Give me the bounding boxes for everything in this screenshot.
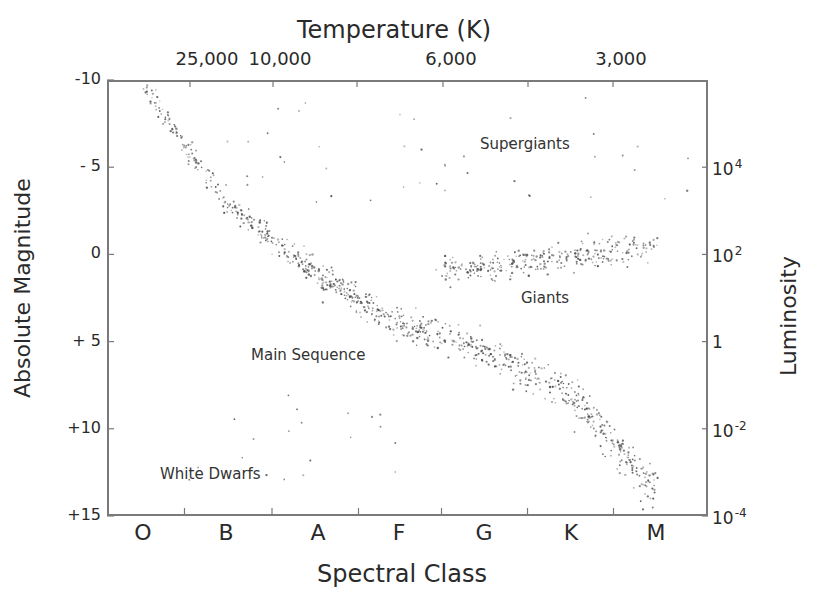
y-tick-label: - 5 [55,156,101,175]
spectral-class-k: K [564,520,578,545]
spectral-class-b: B [218,520,233,545]
spectral-class-f: F [393,520,406,545]
y-tick-label: -10 [55,69,101,88]
y-tick-label: 0 [55,243,101,262]
y2-axis-title: Luminosity [776,256,801,376]
supergiants-label: Supergiants [480,135,570,153]
main-sequence-label: Main Sequence [251,346,366,364]
scatter-plot [0,0,819,608]
x-axis-title: Spectral Class [317,560,487,588]
white-dwarfs-label: White Dwarfs [160,465,261,483]
luminosity-tick-label: 10-4 [712,506,747,528]
luminosity-tick-label: 10-2 [712,419,747,441]
y-tick-label: +15 [55,505,101,524]
spectral-class-a: A [310,520,325,545]
spectral-class-o: O [134,520,151,545]
giants-label: Giants [521,289,569,307]
luminosity-tick-label: 104 [712,157,742,179]
y-tick-label: + 5 [55,331,101,350]
y-tick-label: +10 [55,418,101,437]
luminosity-tick-label: 1 [712,332,723,352]
spectral-class-m: M [647,520,666,545]
luminosity-tick-label: 102 [712,244,742,266]
y-axis-title: Absolute Magnitude [10,178,35,398]
spectral-class-g: G [475,520,492,545]
